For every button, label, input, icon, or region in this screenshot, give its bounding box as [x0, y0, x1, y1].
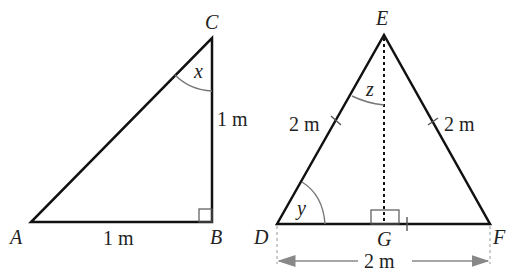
vertex-label-f: F	[492, 226, 506, 248]
triangle-abc	[31, 38, 212, 222]
side-label-ef: 2 m	[444, 113, 475, 135]
vertex-label-d: D	[253, 226, 269, 248]
diagram-canvas: C A B x 1 m 1 m E D F G y z 2 m 2 m 2 m	[0, 0, 510, 277]
angle-label-z: z	[365, 78, 374, 100]
vertex-label-b: B	[210, 226, 222, 248]
diagram-svg: C A B x 1 m 1 m E D F G y z 2 m 2 m 2 m	[0, 0, 510, 277]
vertex-label-c: C	[205, 11, 219, 33]
side-label-ab: 1 m	[103, 227, 134, 249]
angle-label-y: y	[295, 197, 306, 220]
angle-label-x: x	[193, 60, 203, 82]
side-label-bc: 1 m	[217, 108, 248, 130]
side-label-de: 2 m	[289, 113, 320, 135]
vertex-label-a: A	[8, 226, 23, 248]
vertex-label-g: G	[377, 228, 392, 250]
side-label-df: 2 m	[364, 250, 395, 272]
right-angle-marker-b	[199, 209, 212, 222]
vertex-label-e: E	[375, 7, 388, 29]
